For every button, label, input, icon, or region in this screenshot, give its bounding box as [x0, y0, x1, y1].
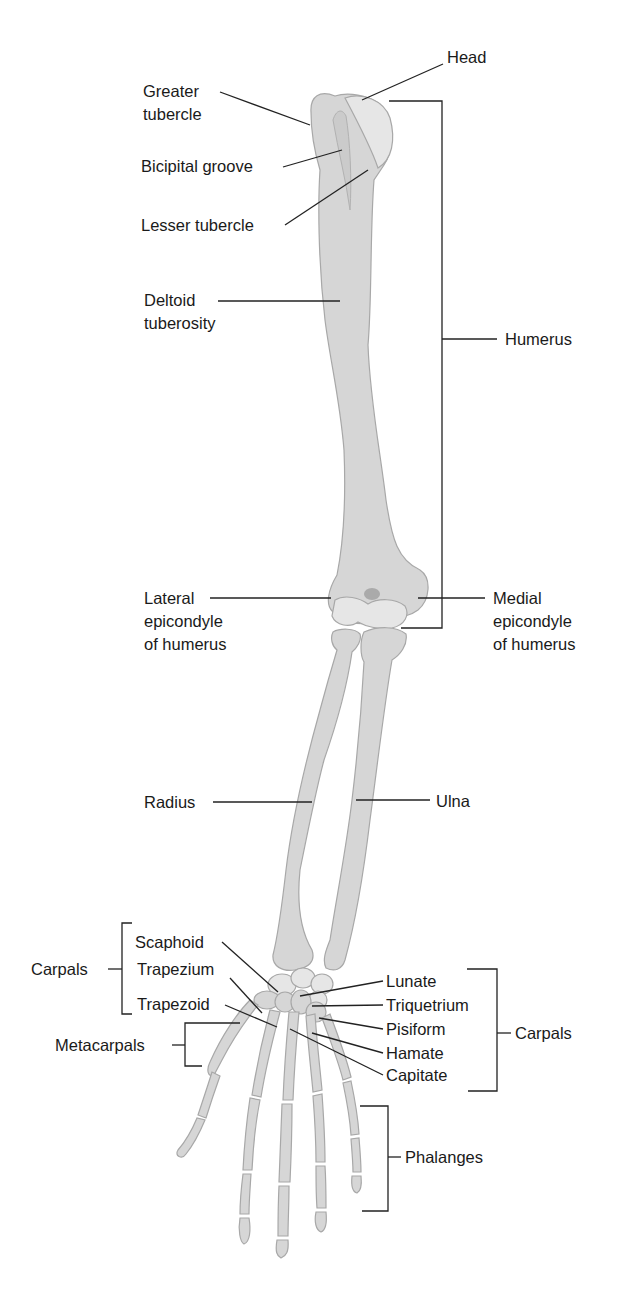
label-humerus: Humerus	[505, 328, 572, 351]
label-carpals-left: Carpals	[31, 958, 88, 981]
label-hamate: Hamate	[386, 1042, 444, 1065]
label-carpals-right: Carpals	[515, 1022, 572, 1045]
label-radius: Radius	[144, 791, 195, 814]
label-scaphoid: Scaphoid	[135, 931, 204, 954]
label-deltoid-tuberosity: Deltoid tuberosity	[144, 289, 216, 335]
label-lesser-tubercle: Lesser tubercle	[141, 214, 254, 237]
label-lunate: Lunate	[386, 970, 436, 993]
label-triquetrium: Triquetrium	[386, 994, 469, 1017]
label-trapezoid: Trapezoid	[137, 993, 210, 1016]
label-greater-tubercle: Greater tubercle	[143, 80, 202, 126]
upper-limb-bone-diagram: Head Greater tubercle Bicipital groove L…	[0, 0, 624, 1309]
label-trapezium: Trapezium	[137, 958, 214, 981]
label-head: Head	[447, 46, 486, 69]
label-bicipital-groove: Bicipital groove	[141, 155, 253, 178]
label-ulna: Ulna	[436, 790, 470, 813]
label-medial-epicondyle: Medial epicondyle of humerus	[493, 587, 576, 656]
label-phalanges: Phalanges	[405, 1146, 483, 1169]
label-capitate: Capitate	[386, 1064, 447, 1087]
label-metacarpals: Metacarpals	[55, 1034, 145, 1057]
label-pisiform: Pisiform	[386, 1018, 446, 1041]
humerus-bone	[311, 94, 428, 629]
label-lateral-epicondyle: Lateral epicondyle of humerus	[144, 587, 227, 656]
